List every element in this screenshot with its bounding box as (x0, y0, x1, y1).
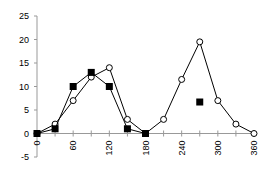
square-marker (70, 83, 77, 90)
line-chart: -50510152025 060120180240300360 (0, 0, 270, 175)
circle-marker (179, 76, 185, 82)
y-tick-label: 25 (19, 11, 29, 21)
square-marker (34, 130, 41, 137)
circle-marker (70, 98, 76, 104)
square-marker (142, 130, 149, 137)
y-tick-label: 5 (24, 105, 29, 115)
square-marker (124, 125, 131, 132)
filled-squares-series (34, 69, 204, 137)
x-tick-label: 120 (104, 141, 114, 156)
circle-marker (124, 116, 130, 122)
x-tick-label: 180 (141, 141, 151, 156)
open-circles-series (34, 39, 257, 137)
x-tick-label: 300 (213, 141, 223, 156)
square-marker (196, 99, 203, 106)
x-tick-label: 360 (249, 141, 259, 156)
y-tick-label: 15 (19, 58, 29, 68)
square-marker (88, 69, 95, 76)
y-tick-label: 20 (19, 35, 29, 45)
y-tick-label: -5 (21, 152, 29, 162)
circle-marker (251, 131, 257, 137)
y-axis: -50510152025 (19, 11, 37, 162)
circle-marker (161, 116, 167, 122)
square-marker (106, 83, 113, 90)
open-circles-line (37, 42, 254, 134)
x-tick-label: 0 (32, 141, 42, 146)
square-marker (52, 125, 59, 132)
x-tick-label: 240 (177, 141, 187, 156)
circle-marker (197, 39, 203, 45)
circle-marker (233, 121, 239, 127)
y-tick-label: 10 (19, 82, 29, 92)
circle-marker (106, 65, 112, 71)
circle-marker (215, 98, 221, 104)
x-tick-label: 60 (68, 141, 78, 151)
series-layer (34, 39, 258, 137)
y-tick-label: 0 (24, 129, 29, 139)
